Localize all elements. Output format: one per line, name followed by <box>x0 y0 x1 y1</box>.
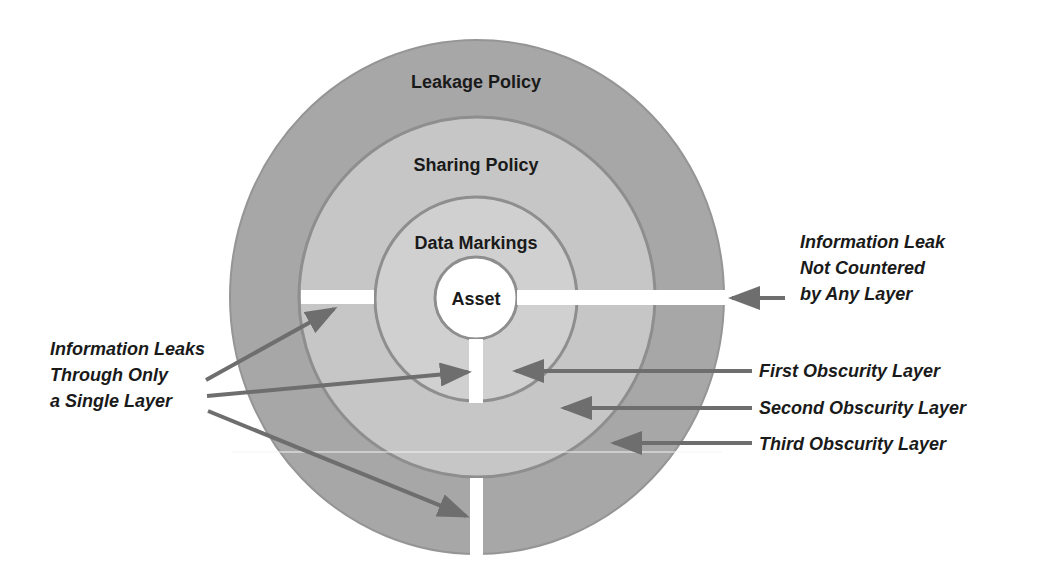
callout-third-obscurity-layer: Third Obscurity Layer <box>759 434 947 454</box>
callout-single-layer-leaks: Information Leaks Through Only a Single … <box>50 339 210 411</box>
gap-left-sharing <box>301 290 374 304</box>
data-markings-label: Data Markings <box>414 233 537 253</box>
callout-first-obscurity-layer: First Obscurity Layer <box>759 361 941 381</box>
obscurity-layers-diagram: Leakage Policy Sharing Policy Data Marki… <box>0 0 1043 582</box>
leakage-policy-label: Leakage Policy <box>411 72 541 92</box>
gap-bottom-leakage <box>470 478 483 558</box>
callout-leak-not-countered: Information Leak Not Countered by Any La… <box>800 232 950 304</box>
callout-second-obscurity-layer: Second Obscurity Layer <box>759 398 967 418</box>
gap-right-all-layers <box>517 290 727 305</box>
asset-label: Asset <box>451 289 500 309</box>
sharing-policy-label: Sharing Policy <box>413 155 538 175</box>
gap-inner-data-markings <box>469 339 483 403</box>
